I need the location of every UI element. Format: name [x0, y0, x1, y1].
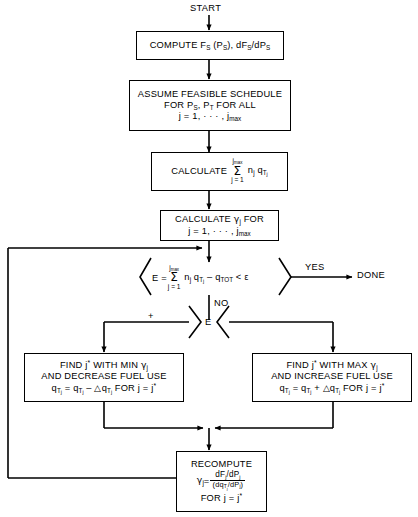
node-increase-fuel: FIND j* WITH MAX γj AND INCREASE FUEL US…	[252, 353, 412, 402]
increase-line-3: qTj = qTj + △qTj FOR j = j*	[256, 382, 408, 396]
recompute-formula: γj = dFj/dPj (dqTj/dPj)	[180, 471, 263, 491]
plus-branch-label: +	[148, 311, 154, 321]
recompute-gamma: γj	[197, 475, 204, 486]
decrease-line-1: FIND j* WITH MIN γj	[28, 359, 180, 371]
node-compute-fs-text: COMPUTE FS (PS), dFS/dPS	[137, 40, 283, 51]
error-summation-lower-limit: j = 1	[168, 284, 181, 291]
decrease-line-2: AND DECREASE FUEL USE	[28, 371, 180, 382]
node-calculate-gamma: CALCULATE γj FOR j = 1, · · · , jmax	[160, 210, 279, 241]
calc-gamma-line-2: j = 1, · · · , jmax	[164, 226, 275, 237]
error-test-lhs: E =	[152, 273, 167, 283]
node-assume-schedule: ASSUME FEASIBLE SCHEDULE FOR PS, PT FOR …	[129, 80, 291, 131]
recompute-equals: =	[204, 476, 210, 487]
error-test-terms: nj qTj – qTOT < ε	[181, 272, 248, 284]
recompute-fraction: dFj/dPj (dqTj/dPj)	[210, 471, 245, 491]
assume-line-3: j = 1, · · · , jmax	[133, 111, 287, 122]
fraction-numerator: dFj/dPj	[210, 471, 245, 480]
node-increase-fuel-text: FIND j* WITH MAX γj AND INCREASE FUEL US…	[253, 359, 411, 396]
yes-branch-label: YES	[305, 262, 325, 272]
calculate-sum-label: CALCULATE	[171, 166, 227, 177]
node-calculate-sum: CALCULATE jmax Σ j = 1 nj qTj	[151, 152, 288, 191]
node-recompute-text: RECOMPUTE γj = dFj/dPj (dqTj/dPj) FOR j …	[177, 459, 266, 503]
start-label: START	[190, 3, 221, 13]
calculate-sum-term: nj qTj	[248, 165, 268, 178]
assume-line-2: FOR PS, PT FOR ALL	[133, 100, 287, 111]
flowchart-canvas: START COMPUTE FS (PS), dFS/dPS ASSUME FE…	[0, 0, 418, 517]
assume-line-1: ASSUME FEASIBLE SCHEDULE	[133, 89, 287, 100]
increase-line-2: AND INCREASE FUEL USE	[256, 371, 408, 382]
node-calculate-sum-text: CALCULATE jmax Σ j = 1 nj qTj	[152, 159, 287, 185]
calc-gamma-line-1: CALCULATE γj FOR	[164, 214, 275, 225]
recompute-line-3: FOR j = j*	[180, 492, 263, 504]
no-branch-label: NO	[214, 298, 229, 308]
summation-operator: jmax Σ j = 1	[231, 158, 244, 184]
node-sign-test: E	[205, 317, 212, 327]
connector-layer	[0, 0, 418, 517]
node-compute-fs: COMPUTE FS (PS), dFS/dPS	[136, 31, 284, 60]
node-calculate-gamma-text: CALCULATE γj FOR j = 1, · · · , jmax	[161, 214, 278, 236]
node-assume-schedule-text: ASSUME FEASIBLE SCHEDULE FOR PS, PT FOR …	[130, 89, 290, 122]
done-label: DONE	[357, 270, 385, 280]
error-summation-operator: jmax Σ j = 1	[168, 265, 181, 291]
node-recompute: RECOMPUTE γj = dFj/dPj (dqTj/dPj) FOR j …	[176, 451, 267, 512]
node-decrease-fuel-text: FIND j* WITH MIN γj AND DECREASE FUEL US…	[25, 359, 183, 396]
error-sigma-glyph: Σ	[168, 272, 181, 283]
decrease-line-3: qTj = qTj – △qTj FOR j = j*	[28, 382, 180, 396]
summation-lower-limit: j = 1	[231, 177, 244, 184]
recompute-line-1: RECOMPUTE	[180, 459, 263, 470]
fraction-denominator: (dqTj/dPj)	[210, 480, 245, 491]
increase-line-1: FIND j* WITH MAX γj	[256, 359, 408, 371]
node-error-test: E = jmax Σ j = 1 nj qTj – qTOT < ε	[152, 265, 249, 291]
node-decrease-fuel: FIND j* WITH MIN γj AND DECREASE FUEL US…	[24, 353, 184, 402]
